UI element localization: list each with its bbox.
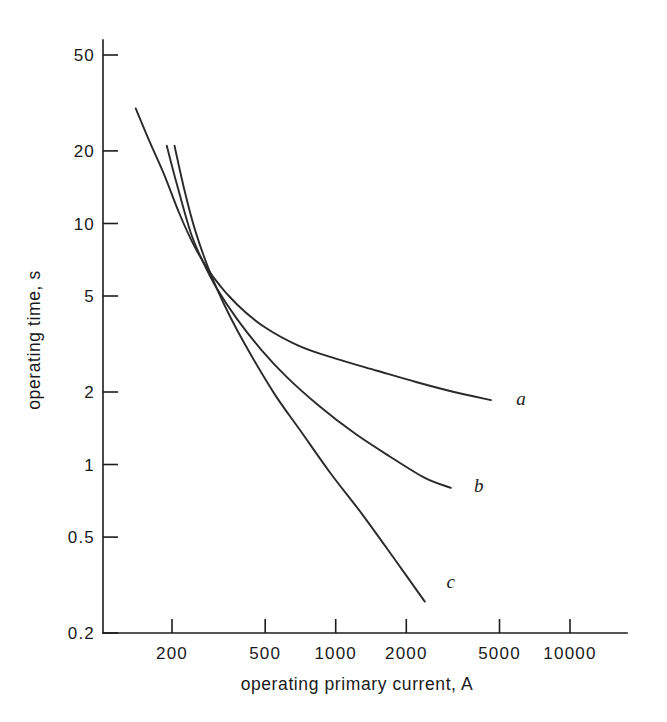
y-axis-title: operating time, s bbox=[24, 270, 44, 410]
y-tick-label: 2 bbox=[84, 383, 95, 402]
curve-labels: abc bbox=[447, 388, 526, 591]
x-axis-ticks: 20050010002000500010000 bbox=[156, 619, 597, 663]
chart-container: 5020105210.50.2 20050010002000500010000 … bbox=[0, 0, 667, 722]
y-tick-label: 50 bbox=[74, 46, 95, 65]
x-tick-label: 200 bbox=[156, 644, 188, 663]
y-tick-label: 5 bbox=[84, 287, 95, 306]
y-tick-label: 1 bbox=[84, 456, 95, 475]
axis-lines bbox=[103, 40, 627, 633]
curve-label-a: a bbox=[516, 388, 526, 409]
y-tick-label: 0.2 bbox=[68, 624, 95, 643]
chart-plot-area: 5020105210.50.2 20050010002000500010000 … bbox=[0, 0, 667, 722]
x-tick-label: 10000 bbox=[543, 644, 596, 663]
curve-b bbox=[167, 146, 451, 488]
x-tick-label: 2000 bbox=[385, 644, 428, 663]
x-axis-title: operating primary current, A bbox=[241, 674, 474, 694]
y-axis-ticks: 5020105210.50.2 bbox=[68, 46, 118, 643]
x-tick-label: 1000 bbox=[314, 644, 357, 663]
y-tick-label: 20 bbox=[74, 142, 95, 161]
curve-label-c: c bbox=[447, 571, 456, 592]
curve-label-b: b bbox=[474, 475, 484, 496]
x-tick-label: 5000 bbox=[478, 644, 521, 663]
x-tick-label: 500 bbox=[249, 644, 281, 663]
data-curves bbox=[136, 108, 491, 601]
curve-a bbox=[136, 108, 491, 400]
y-tick-label: 10 bbox=[74, 215, 95, 234]
y-tick-label: 0.5 bbox=[68, 528, 95, 547]
